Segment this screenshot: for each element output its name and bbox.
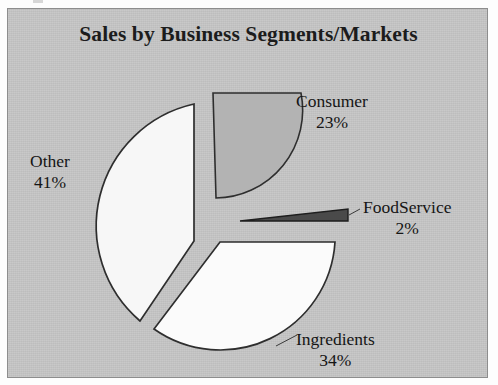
pie-label-consumer-value: 23% [296,112,368,133]
pie-label-ingredients: Ingredients 34% [296,329,375,370]
pie-label-consumer-name: Consumer [296,91,368,112]
leader-line-ingredients [276,335,297,346]
pie-label-consumer: Consumer 23% [296,91,368,132]
pie-label-other-name: Other [30,151,70,172]
pie-label-ingredients-name: Ingredients [296,329,375,350]
pie-slice-consumer[interactable] [213,93,303,198]
pie-label-ingredients-value: 34% [296,350,375,371]
pie-label-foodservice: FoodService 2% [363,197,451,238]
pie-slice-other[interactable] [96,104,194,321]
scanned-page: Sales by Business Segments/Markets Consu… [0,0,498,385]
pie-label-foodservice-value: 2% [363,218,451,239]
pie-slice-foodservice[interactable] [240,209,348,221]
pie-label-foodservice-name: FoodService [363,197,451,218]
leader-line-foodservice [349,209,360,215]
scan-artifact [33,0,43,3]
chart-panel: Sales by Business Segments/Markets Consu… [7,8,488,378]
pie-chart [8,9,488,378]
pie-label-other-value: 41% [30,172,70,193]
pie-label-other: Other 41% [30,151,70,192]
